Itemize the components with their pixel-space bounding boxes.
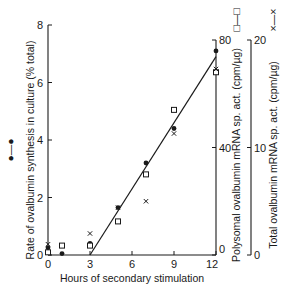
- polysomal-mrna-point: [88, 243, 93, 248]
- chart-canvas: 036912024680408001020 Hours of secondary…: [0, 0, 291, 293]
- x-tick-label: 0: [45, 258, 51, 270]
- left-y-legend-symbol: ●—●: [4, 138, 16, 161]
- polysomal-mrna-point: [116, 219, 121, 224]
- polysomal-mrna-point: [144, 172, 149, 177]
- right-outer-legend-symbol: ×—×: [267, 9, 279, 32]
- fit-line: [90, 57, 216, 255]
- y-tick-label: 2: [37, 192, 43, 204]
- polysomal-mrna-point: [172, 107, 177, 112]
- left-y-axis-title: Rate of ovalbumin synthesis in culture (…: [24, 41, 36, 260]
- data-points: [46, 48, 219, 255]
- total-mrna-point: [144, 199, 148, 203]
- y-tick-label: 6: [37, 77, 43, 89]
- y3-tick-label: 20: [254, 34, 266, 46]
- y2-tick-label: 0: [219, 243, 225, 255]
- regression-line: [90, 57, 216, 255]
- x-tick-label: 3: [87, 258, 93, 270]
- total-mrna-point: [172, 131, 176, 135]
- ticks: [48, 25, 251, 255]
- x-tick-label: 12: [206, 258, 218, 270]
- y2-tick-label: 80: [219, 34, 231, 46]
- synthesis-rate-point: [214, 48, 219, 53]
- synthesis-rate-point: [60, 251, 65, 256]
- polysomal-mrna-point: [60, 243, 65, 248]
- synthesis-rate-point: [172, 126, 177, 131]
- right-outer-y-axis-title: Total ovalbumin mRNA sp. act. (cpm/µg): [267, 61, 279, 249]
- right-inner-y-axis-title: Polysomal ovalbumin mRNA sp. act. (cpm/µ…: [230, 48, 242, 262]
- x-tick-label: 9: [171, 258, 177, 270]
- y3-tick-label: 10: [254, 142, 266, 154]
- y-tick-label: 4: [37, 134, 43, 146]
- total-mrna-point: [88, 231, 92, 235]
- y-tick-label: 8: [37, 19, 43, 31]
- y3-tick-label: 0: [254, 249, 260, 261]
- polysomal-mrna-point: [46, 250, 51, 255]
- x-axis-title: Hours of secondary stimulation: [60, 272, 204, 284]
- y-tick-label: 0: [37, 249, 43, 261]
- x-tick-label: 6: [129, 258, 135, 270]
- right-inner-legend-symbol: □—□: [230, 8, 242, 32]
- synthesis-rate-point: [144, 161, 149, 166]
- axes: [48, 25, 251, 255]
